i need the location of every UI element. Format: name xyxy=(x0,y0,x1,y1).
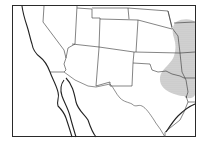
boundary-sd-ne xyxy=(128,8,172,27)
international-border xyxy=(64,72,165,137)
boundary-ut-wy xyxy=(77,8,100,18)
boundary-ut-az xyxy=(72,44,134,52)
boundary-nm-tx xyxy=(96,63,133,86)
boundary-ca-az xyxy=(50,70,66,72)
boundary-ne-sd xyxy=(92,8,129,19)
range-shading xyxy=(160,19,195,98)
coastline-california xyxy=(22,6,50,72)
boundary-nv-ut xyxy=(66,6,77,58)
coastline-sonora xyxy=(66,78,96,137)
boundary-ks-ok xyxy=(134,52,180,53)
range-map: Range map xyxy=(0,0,208,148)
coastline-baja-east xyxy=(61,80,76,137)
boundary-wy-co xyxy=(100,19,172,29)
boundary-four-corners-ns xyxy=(96,18,100,86)
boundary-tx-la xyxy=(165,96,188,137)
boundary-co-ks xyxy=(136,20,138,52)
map-svg xyxy=(0,0,208,148)
boundary-ca-nv xyxy=(43,6,66,70)
